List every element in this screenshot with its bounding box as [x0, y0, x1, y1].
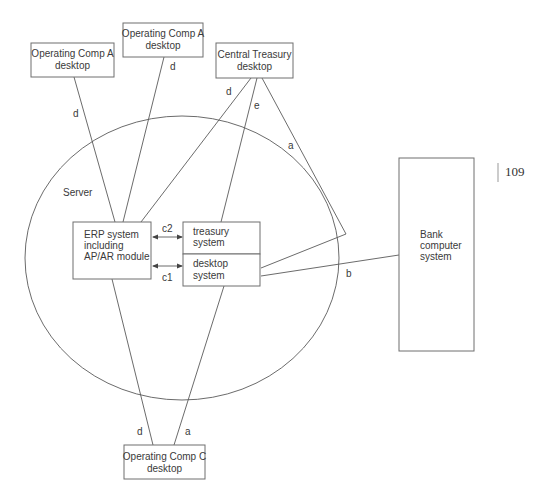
edge-label-a: a	[288, 140, 294, 151]
server-boundary	[25, 116, 339, 400]
node-label: ERP system	[84, 229, 139, 240]
node-label: desktop	[145, 40, 180, 51]
node-label: Central Treasury	[218, 49, 292, 60]
node-label: computer	[420, 240, 462, 251]
node-label: desktop	[193, 258, 228, 269]
edge-d-central-treasury-erp	[141, 78, 251, 222]
node-label: including	[84, 240, 123, 251]
node-label: desktop	[237, 61, 272, 72]
node-label: Operating Comp C	[123, 451, 206, 462]
node-label: system	[420, 251, 452, 262]
node-desktop-system: desktop system	[183, 254, 260, 286]
node-label: Operating Comp A	[31, 48, 114, 59]
node-label: Bank	[420, 229, 444, 240]
node-central-treasury: Central Treasury desktop	[216, 43, 293, 78]
edge-label-b: b	[346, 268, 352, 279]
page-number: 109	[505, 164, 525, 179]
node-treasury-system: treasury system	[183, 222, 260, 254]
edge-d-erp-opcomp-c	[112, 279, 153, 445]
node-label: treasury	[193, 226, 229, 237]
edge-label-a: a	[185, 426, 191, 437]
node-label: AP/AR module	[84, 251, 150, 262]
node-label: Operating Comp A	[122, 28, 205, 39]
node-label: system	[193, 237, 225, 248]
node-label: system	[193, 270, 225, 281]
edge-label-c1: c1	[162, 272, 173, 283]
node-opcomp-c: Operating Comp C desktop	[123, 445, 206, 479]
edge-label-d: d	[73, 108, 79, 119]
edge-label-d: d	[170, 61, 176, 72]
edge-a-desktop-system-opcomp-c	[174, 286, 224, 445]
server-label: Server	[63, 187, 93, 198]
edge-a-central-treasury-desktop-system	[261, 78, 346, 268]
node-opcomp-a2: Operating Comp A desktop	[122, 23, 205, 57]
node-bank-computer-system: Bank computer system	[399, 158, 474, 351]
edge-d-opcomp-a2-erp	[123, 57, 164, 222]
edge-label-d: d	[137, 426, 143, 437]
node-opcomp-a1: Operating Comp A desktop	[31, 43, 114, 77]
edge-label-c2: c2	[162, 223, 173, 234]
node-erp-system: ERP system including AP/AR module	[73, 222, 151, 279]
node-label: desktop	[55, 60, 90, 71]
edge-b-desktop-system-bank	[261, 255, 399, 276]
edge-e-central-treasury-treasury-system	[221, 78, 257, 222]
network-diagram: Operating Comp A desktop Operating Comp …	[0, 0, 551, 501]
edge-label-e: e	[254, 100, 260, 111]
edge-label-d: d	[226, 86, 232, 97]
node-label: desktop	[147, 463, 182, 474]
